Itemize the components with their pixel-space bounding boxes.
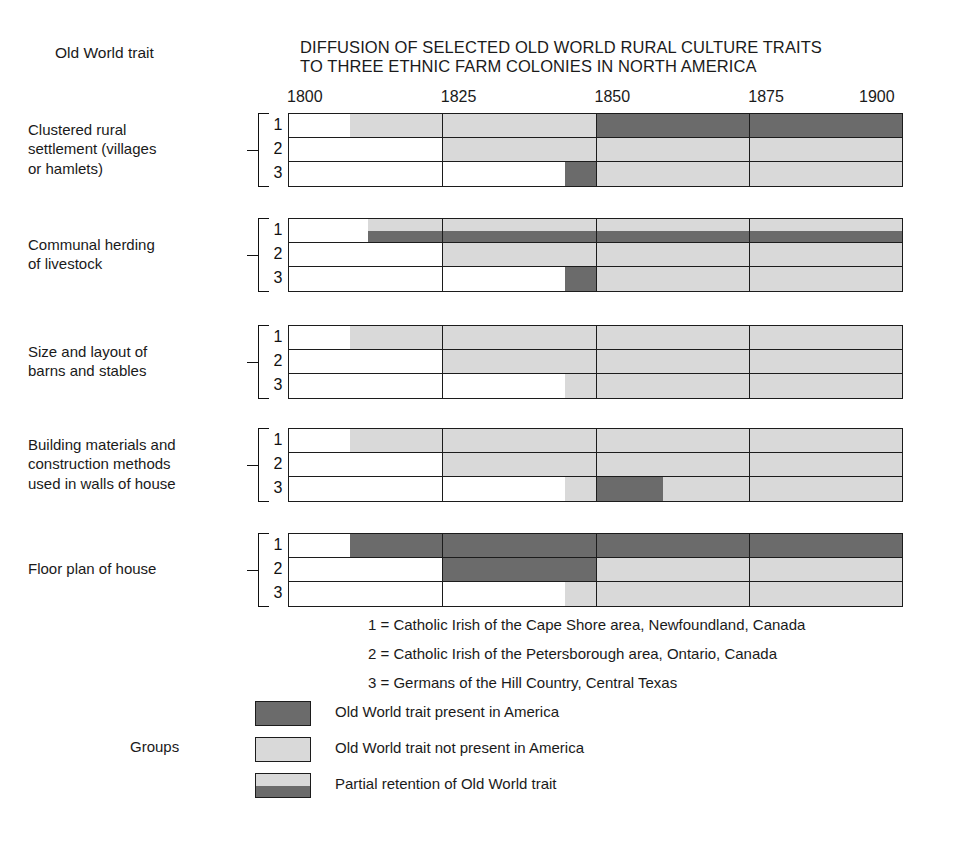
trait-label: Communal herding of livestock (28, 235, 253, 274)
trait-label: Size and layout of barns and stables (28, 342, 253, 381)
gridline-1875 (749, 114, 750, 137)
legend-row-absent: Old World trait not present in America (255, 733, 855, 769)
row-number-3: 3 (270, 480, 286, 496)
swatch-top-half (256, 774, 310, 786)
gridline-1825 (442, 350, 443, 373)
gridline-1850 (596, 326, 597, 349)
row-number-1: 1 (270, 432, 286, 448)
legend-label: Old World trait not present in America (335, 739, 584, 756)
bar-matrix (288, 533, 903, 607)
segment-present (442, 558, 596, 581)
gridline-1875 (749, 243, 750, 266)
segment-present (565, 267, 596, 291)
gridline-1850 (596, 114, 597, 137)
row-number-3: 3 (270, 585, 286, 601)
segment-blank (289, 243, 442, 266)
bar-row[interactable] (289, 114, 902, 138)
row-number-2: 2 (270, 561, 286, 577)
bar-row[interactable] (289, 374, 902, 398)
gridline-1825 (442, 162, 443, 186)
bar-row[interactable] (289, 219, 902, 243)
gridline-1825 (442, 477, 443, 501)
segment-blank (289, 350, 442, 373)
bar-row[interactable] (289, 558, 902, 582)
segment-absent (442, 243, 902, 266)
row-number-2: 2 (270, 456, 286, 472)
legend-row-present: Old World trait present in America (255, 697, 855, 733)
segment-absent (442, 453, 902, 476)
bar-matrix (288, 113, 903, 187)
gridline-1825 (442, 219, 443, 242)
gridline-1875 (749, 138, 750, 161)
segment-blank (289, 267, 565, 291)
row-number-1: 1 (270, 117, 286, 133)
gridline-1850 (596, 243, 597, 266)
gridline-1850 (596, 429, 597, 452)
legend: Old World trait present in AmericaOld Wo… (255, 697, 855, 805)
segment-blank (289, 477, 565, 501)
bar-matrix (288, 218, 903, 292)
gridline-1850 (596, 558, 597, 581)
segment-absent (565, 477, 596, 501)
trait-label: Building materials and construction meth… (28, 435, 253, 494)
gridline-1850 (596, 267, 597, 291)
segment-blank (289, 138, 442, 161)
gridline-1850 (596, 477, 597, 501)
bar-row[interactable] (289, 453, 902, 477)
bar-row[interactable] (289, 243, 902, 267)
bar-row[interactable] (289, 429, 902, 453)
gridline-1825 (442, 558, 443, 581)
gridline-1875 (749, 534, 750, 557)
bar-row[interactable] (289, 162, 902, 186)
bar-row[interactable] (289, 267, 902, 291)
bar-row[interactable] (289, 582, 902, 606)
bar-row[interactable] (289, 138, 902, 162)
gridline-1875 (749, 477, 750, 501)
bar-row[interactable] (289, 477, 902, 501)
group-bracket-stem (247, 255, 259, 256)
bar-row[interactable] (289, 326, 902, 350)
row-number-1: 1 (270, 329, 286, 345)
bar-matrix (288, 428, 903, 502)
gridline-1825 (442, 326, 443, 349)
group-bracket-stem (247, 150, 259, 151)
segment-blank (289, 374, 565, 398)
segment-blank (289, 534, 350, 557)
gridline-1825 (442, 243, 443, 266)
gridline-1850 (596, 219, 597, 242)
gridline-1850 (596, 138, 597, 161)
segment-present (596, 477, 664, 501)
group-bracket-stem (247, 362, 259, 363)
segment-absent (350, 429, 903, 452)
legend-swatch-partial (255, 773, 311, 798)
legend-swatch-present (255, 701, 311, 726)
row-number-2: 2 (270, 353, 286, 369)
gridline-1875 (749, 219, 750, 242)
row-number-3: 3 (270, 377, 286, 393)
swatch-bottom-half (256, 750, 310, 762)
segment-absent (442, 350, 902, 373)
swatch-top-half (256, 738, 310, 750)
group-key-line-3: 3 = Germans of the Hill Country, Central… (368, 668, 928, 697)
gridline-1850 (596, 534, 597, 557)
trait-label: Floor plan of house (28, 559, 253, 579)
segment-present (350, 534, 903, 557)
segment-blank (289, 114, 350, 137)
swatch-bottom-half (256, 714, 310, 726)
group-bracket-stem (247, 570, 259, 571)
segment-blank (289, 162, 565, 186)
legend-groups-label: Groups (130, 738, 179, 755)
bar-row[interactable] (289, 350, 902, 374)
segment-blank (289, 429, 350, 452)
gridline-1825 (442, 138, 443, 161)
bar-row[interactable] (289, 534, 902, 558)
legend-swatch-absent (255, 737, 311, 762)
segment-absent (565, 582, 902, 606)
gridline-1875 (749, 582, 750, 606)
group-key-list: 1 = Catholic Irish of the Cape Shore are… (368, 610, 928, 697)
row-number-1: 1 (270, 222, 286, 238)
row-number-3: 3 (270, 165, 286, 181)
gridline-1825 (442, 534, 443, 557)
group-bracket-stem (247, 465, 259, 466)
gridline-1825 (442, 453, 443, 476)
